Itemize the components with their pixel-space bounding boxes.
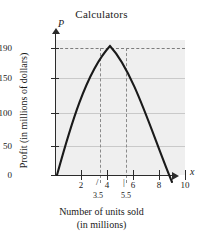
- y-axis-title: Profit (in millions of dollars): [18, 31, 29, 191]
- profit-curve: [0, 0, 203, 234]
- figure-calculators: Calculators P x 190 150 100 50 0 2 4 6 8…: [0, 0, 203, 234]
- x-axis-caption-line2: (in millions): [0, 219, 203, 230]
- x-axis-caption-line1: Number of units sold: [0, 206, 203, 217]
